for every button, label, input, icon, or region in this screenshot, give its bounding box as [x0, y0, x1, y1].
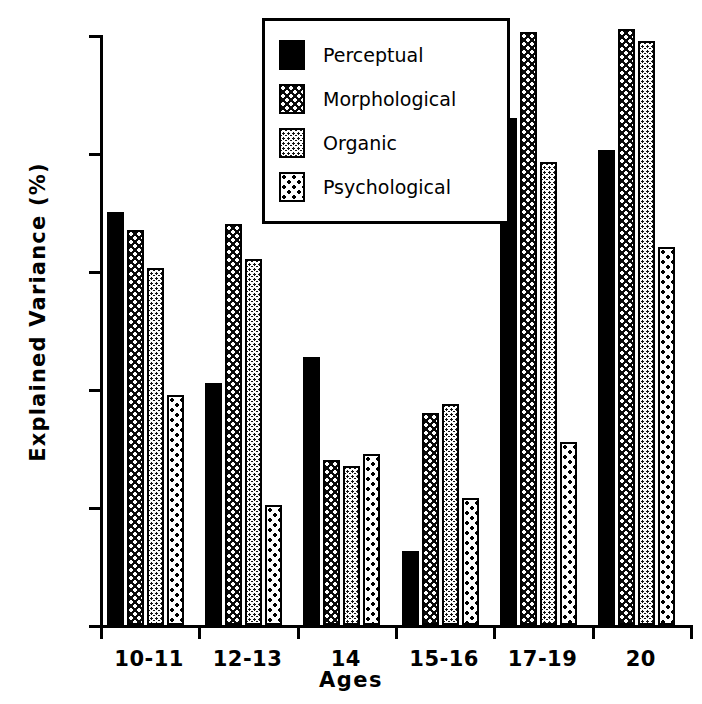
bar-12-13-organic [245, 259, 262, 625]
bar-12-13-psychological [265, 505, 282, 625]
bar-14-organic [343, 466, 360, 625]
bar-17-19-organic [540, 162, 557, 625]
legend-swatch-perceptual-icon [279, 40, 305, 70]
x-tick-label: 15-16 [409, 647, 479, 671]
y-tick [89, 507, 103, 510]
bar-14-morphological [323, 460, 340, 625]
legend-label: Psychological [323, 176, 451, 198]
bar-20-morphological [618, 29, 635, 625]
bar-17-19-morphological [520, 32, 537, 625]
bar-14-psychological [363, 454, 380, 625]
legend-label: Perceptual [323, 44, 423, 66]
y-axis-title: Explained Variance (%) [26, 102, 50, 522]
legend-label: Morphological [323, 88, 456, 110]
bar-10-11-organic [147, 268, 164, 625]
y-tick [89, 35, 103, 38]
legend-swatch-morphological-icon [279, 84, 305, 114]
x-tick [690, 625, 693, 639]
legend-label: Organic [323, 132, 397, 154]
bar-chart-figure: Explained Variance (%) Ages 020406080100… [0, 0, 702, 704]
x-tick-label: 20 [626, 647, 656, 671]
x-tick [297, 625, 300, 639]
bar-10-11-psychological [167, 395, 184, 625]
x-tick-label: 10-11 [114, 647, 184, 671]
x-tick [493, 625, 496, 639]
x-tick [395, 625, 398, 639]
x-tick-label: 12-13 [213, 647, 283, 671]
x-tick-label: 17-19 [508, 647, 578, 671]
y-tick [89, 271, 103, 274]
legend-swatch-organic-icon [279, 128, 305, 158]
bar-20-organic [638, 41, 655, 625]
bar-10-11-perceptual [107, 212, 124, 625]
y-tick [89, 153, 103, 156]
bar-14-perceptual [303, 357, 320, 625]
y-tick [89, 389, 103, 392]
bar-20-perceptual [598, 150, 615, 625]
legend-item-perceptual[interactable]: Perceptual [279, 33, 497, 77]
y-axis-line [100, 35, 103, 626]
x-tick [592, 625, 595, 639]
x-axis-title: Ages [0, 668, 702, 692]
x-tick [100, 625, 103, 639]
bar-10-11-morphological [127, 230, 144, 625]
legend-swatch-psychological-icon [279, 172, 305, 202]
bar-20-psychological [658, 247, 675, 625]
bar-12-13-perceptual [205, 383, 222, 625]
x-tick-label: 14 [331, 647, 361, 671]
legend-item-organic[interactable]: Organic [279, 121, 497, 165]
legend-item-psychological[interactable]: Psychological [279, 165, 497, 209]
bar-15-16-organic [442, 404, 459, 625]
legend-item-morphological[interactable]: Morphological [279, 77, 497, 121]
bar-15-16-morphological [422, 413, 439, 625]
chart-legend: PerceptualMorphologicalOrganicPsychologi… [262, 18, 510, 224]
bar-17-19-psychological [560, 442, 577, 625]
bar-12-13-morphological [225, 224, 242, 625]
bar-15-16-perceptual [402, 551, 419, 625]
x-tick [198, 625, 201, 639]
bar-15-16-psychological [462, 498, 479, 625]
